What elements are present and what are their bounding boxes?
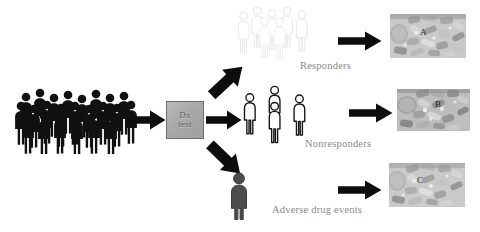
arrow-nonresponders-to-panel-b <box>349 103 393 123</box>
label-responders: Responders <box>300 60 351 71</box>
micrograph-texture-a <box>390 14 466 58</box>
micrograph-texture-c <box>389 163 465 207</box>
panel-b-letter: B <box>435 99 441 109</box>
panel-c-letter: C <box>417 175 423 185</box>
label-adverse-drug-events: Adverse drug events <box>272 204 362 215</box>
patient-population-crowd <box>14 86 142 154</box>
dx-test-line2: test <box>178 120 191 129</box>
adverse-drug-events-person <box>226 172 252 220</box>
panel-a-letter: A <box>420 27 427 37</box>
micrograph-panel-c: C <box>389 163 465 207</box>
arrow-adverse-to-panel-c <box>338 180 382 200</box>
arrow-dx-to-nonresponders <box>206 110 242 130</box>
figure-canvas: Dx test <box>0 0 480 232</box>
micrograph-panel-a: A <box>390 14 466 58</box>
arrow-population-to-dx <box>126 110 166 130</box>
micrograph-panel-b: B <box>397 89 470 131</box>
label-nonresponders: Nonresponders <box>305 138 371 149</box>
micrograph-texture-b <box>397 89 470 131</box>
dx-test-box: Dx test <box>166 101 204 139</box>
arrow-responders-to-panel-a <box>338 31 382 51</box>
responders-people-group <box>238 6 320 68</box>
